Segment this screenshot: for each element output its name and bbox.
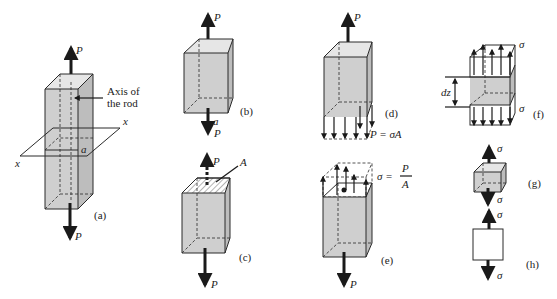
panel-f: σ σ dz (f)	[441, 38, 544, 125]
stress-arrows-down-icon	[474, 107, 510, 125]
panel-h: σ σ (h)	[473, 208, 539, 281]
svg-text:P: P	[213, 127, 221, 139]
panel-g: σ σ (g)	[474, 142, 541, 205]
rod-front-face	[45, 89, 78, 209]
equation-numerator: P	[401, 162, 409, 174]
equation-denominator: A	[401, 178, 409, 190]
panel-tag-h: (h)	[526, 258, 539, 271]
svg-text:σ: σ	[497, 208, 503, 220]
panel-e: σ = P A P (e)	[323, 162, 412, 290]
rod-side-face	[78, 74, 93, 209]
panel-tag-f: (f)	[533, 108, 544, 121]
svg-text:P: P	[210, 278, 218, 290]
svg-text:σ: σ	[497, 269, 503, 281]
panel-c: P A P (c)	[182, 155, 252, 290]
svg-text:σ: σ	[497, 142, 503, 154]
svg-text:σ: σ	[519, 102, 525, 114]
force-label-bottom: P	[74, 230, 82, 242]
panel-b: P P a (b)	[184, 11, 253, 139]
stress-element-square	[473, 229, 503, 260]
dimension-label-dz: dz	[441, 86, 452, 98]
axis-label-line2: the rod	[107, 97, 138, 109]
panel-d: P (d) P = σA	[324, 11, 402, 140]
svg-text:P: P	[213, 11, 221, 23]
plane-label-right: x	[122, 115, 128, 127]
panel-tag-g: (g)	[528, 177, 541, 190]
section-label: a	[81, 143, 87, 155]
svg-text:P: P	[212, 155, 220, 167]
axis-label-line1: Axis of	[107, 85, 140, 97]
svg-text:P: P	[349, 278, 357, 290]
equation-lhs: σ =	[377, 170, 393, 182]
panel-tag-a: (a)	[94, 209, 107, 222]
panel-a: P x x a Axis of the rod P (a)	[14, 44, 140, 242]
svg-text:a: a	[213, 115, 219, 127]
panel-tag-d: (d)	[385, 107, 398, 120]
svg-text:σ: σ	[497, 193, 503, 205]
svg-text:σ: σ	[519, 38, 525, 50]
panel-tag-e: (e)	[381, 254, 394, 267]
equation-p-sigma-a: P = σA	[369, 128, 402, 140]
force-label-top: P	[75, 44, 83, 56]
svg-text:A: A	[239, 156, 247, 168]
svg-text:P: P	[353, 11, 361, 23]
plane-label-left: x	[14, 157, 20, 169]
panel-tag-c: (c)	[239, 251, 252, 264]
panel-tag-b: (b)	[240, 105, 253, 118]
diagram-canvas: P x x a Axis of the rod P (a) P	[0, 0, 557, 299]
